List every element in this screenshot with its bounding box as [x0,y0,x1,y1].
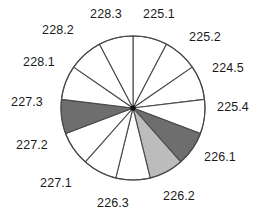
pie-label-225-1: 225.1 [143,8,175,21]
pie-center-dot [130,105,135,110]
pie-label-228-3: 228.3 [90,8,122,21]
pie-label-228-2: 228.2 [42,24,74,37]
pie-label-226-1: 226.1 [204,151,236,164]
pie-label-228-1: 228.1 [23,56,55,69]
pie-label-224-5: 224.5 [212,62,244,75]
pie-label-226-2: 226.2 [163,190,195,203]
pie-label-227-2: 227.2 [16,139,48,152]
pie-label-226-3: 226.3 [97,197,129,210]
pie-label-227-3: 227.3 [11,96,43,109]
pie-chart: 225.1225.2224.5225.4226.1226.2226.3227.1… [0,0,259,221]
pie-label-225-2: 225.2 [189,31,221,44]
pie-label-225-4: 225.4 [217,101,249,114]
pie-label-227-1: 227.1 [40,177,72,190]
